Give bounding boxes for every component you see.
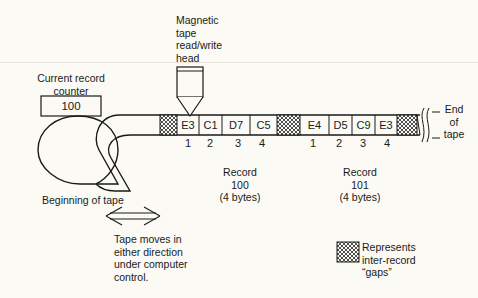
byte-index: 2: [200, 137, 220, 149]
gap-cell: [277, 115, 300, 135]
byte-index: 3: [353, 137, 373, 149]
read-write-head-icon: [177, 67, 203, 116]
byte-index: 4: [377, 137, 397, 149]
gap-cell: [160, 115, 177, 135]
record-label: Record 100 (4 bytes): [200, 166, 280, 204]
byte-index: 3: [228, 137, 248, 149]
byte-cell: D7: [222, 115, 250, 136]
tape-reel: [38, 116, 118, 184]
double-arrow-icon: [106, 207, 160, 225]
byte-cell: C5: [250, 115, 277, 136]
head-label: Magnetic tape read/write head: [176, 14, 222, 64]
byte-index: 2: [329, 137, 349, 149]
byte-cell: E3: [177, 115, 199, 136]
byte-cell: C1: [199, 115, 222, 136]
movement-note: Tape moves in either direction under com…: [114, 233, 188, 283]
byte-cell: D5: [329, 115, 352, 136]
byte-index: 1: [178, 137, 198, 149]
gap-cell: [397, 115, 417, 135]
end-of-tape-label: End of tape: [436, 103, 472, 141]
tape-break-icon: [422, 108, 429, 142]
gap-legend-swatch: [337, 242, 359, 262]
byte-index: 4: [252, 137, 272, 149]
byte-cell: C9: [352, 115, 375, 136]
beginning-of-tape-label: Beginning of tape: [42, 194, 124, 207]
byte-cell: E3: [375, 115, 397, 136]
byte-index: 1: [303, 137, 323, 149]
counter-value: 100: [41, 100, 101, 113]
byte-cell: E4: [300, 115, 329, 136]
counter-label: Current record counter: [30, 72, 112, 97]
record-label: Record 101 (4 bytes): [320, 166, 400, 204]
gap-legend-label: Represents inter-record “gaps”: [362, 241, 416, 279]
